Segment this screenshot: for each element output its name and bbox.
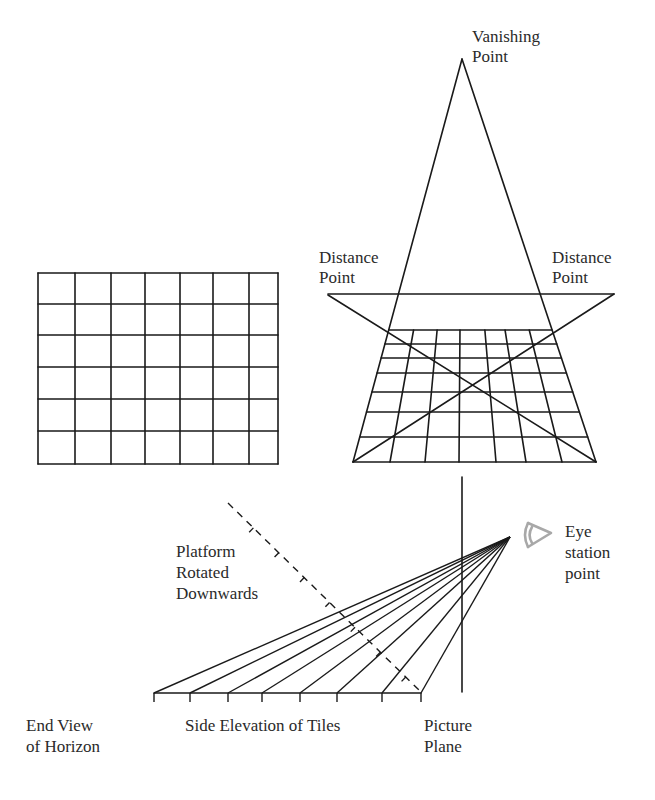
- perspective-diagram: Vanishing Point Distance Point Distance …: [0, 0, 655, 800]
- eye-station-point-label: Eye station point: [565, 522, 611, 583]
- eye-icon: [525, 523, 551, 547]
- svg-text:of Horizon: of Horizon: [26, 737, 101, 756]
- sight-line: [262, 537, 510, 693]
- svg-text:Distance: Distance: [319, 248, 378, 267]
- svg-text:Platform: Platform: [176, 542, 236, 561]
- svg-text:point: point: [565, 564, 600, 583]
- sight-line: [421, 537, 510, 693]
- picture-plane-label: Picture Plane: [424, 716, 472, 756]
- platform-tick: [249, 528, 253, 532]
- tile-column-line: [529, 330, 562, 462]
- svg-text:Point: Point: [472, 47, 508, 66]
- tile-column-line: [459, 330, 460, 462]
- distance-point-right-label: Distance Point: [552, 248, 611, 287]
- svg-text:station: station: [565, 543, 611, 562]
- platform-tick: [275, 553, 279, 557]
- tile-column-line: [505, 330, 526, 462]
- sight-line: [228, 537, 510, 693]
- end-view-of-horizon-label: End View of Horizon: [26, 716, 101, 756]
- svg-text:Point: Point: [552, 268, 588, 287]
- svg-text:Point: Point: [319, 268, 355, 287]
- svg-text:Side Elevation of Tiles: Side Elevation of Tiles: [185, 716, 340, 735]
- plan-view-tile-grid: [38, 273, 278, 464]
- vanishing-point-label: Vanishing Point: [472, 27, 541, 66]
- svg-text:Eye: Eye: [565, 522, 591, 541]
- svg-text:Vanishing: Vanishing: [472, 27, 541, 46]
- svg-text:Picture: Picture: [424, 716, 472, 735]
- tile-column-line: [425, 330, 437, 462]
- platform-tick: [402, 677, 406, 681]
- svg-text:Plane: Plane: [424, 737, 462, 756]
- svg-text:Downwards: Downwards: [176, 584, 258, 603]
- distance-point-left-label: Distance Point: [319, 248, 378, 287]
- svg-text:Rotated: Rotated: [176, 563, 229, 582]
- sight-line: [337, 537, 510, 693]
- platform-tick: [351, 627, 355, 631]
- svg-text:Distance: Distance: [552, 248, 611, 267]
- side-elevation-of-tiles-label: Side Elevation of Tiles: [185, 716, 340, 735]
- sight-line: [382, 537, 510, 693]
- svg-text:End View: End View: [26, 716, 94, 735]
- tile-column-line: [390, 330, 414, 462]
- platform-tick: [300, 578, 304, 582]
- platform-rotated-label: Platform Rotated Downwards: [176, 542, 258, 603]
- platform-tick: [325, 602, 329, 606]
